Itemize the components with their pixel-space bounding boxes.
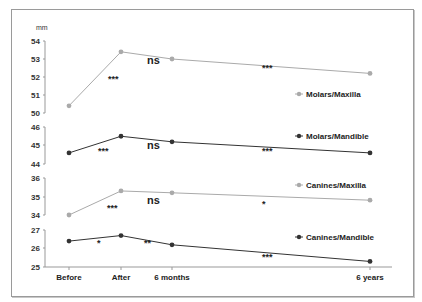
legend-label: Canines/Maxilla	[306, 181, 367, 190]
significance-annotation: *	[97, 238, 101, 248]
line-chart: mm5453525150464544363534272625BeforeAfte…	[0, 0, 422, 302]
significance-annotation: ***	[262, 252, 273, 262]
data-point	[368, 198, 373, 203]
significance-annotation: ***	[98, 146, 109, 156]
data-point	[67, 103, 72, 108]
y-tick-label: 52	[31, 73, 40, 82]
legend-marker	[297, 134, 301, 138]
data-point	[368, 71, 373, 76]
legend-label: Canines/Mandible	[306, 233, 375, 242]
y-tick-label: 51	[31, 91, 40, 100]
legend-label: Molars/Mandible	[306, 132, 369, 141]
data-point	[67, 151, 72, 156]
data-point	[170, 190, 175, 195]
y-tick-label: 50	[31, 109, 40, 118]
data-point	[67, 213, 72, 218]
significance-annotation: **	[144, 238, 152, 248]
x-tick-label: After	[112, 273, 131, 282]
significance-annotation: ***	[262, 63, 273, 73]
significance-annotation: ***	[108, 74, 119, 84]
x-tick-label: 6 months	[154, 273, 190, 282]
data-point	[368, 151, 373, 156]
x-tick-label: 6 years	[356, 273, 384, 282]
significance-annotation: ns	[147, 194, 160, 206]
data-point	[67, 239, 72, 244]
y-tick-label: 54	[31, 37, 40, 46]
x-tick-label: Before	[56, 273, 82, 282]
y-tick-label: 44	[31, 160, 40, 169]
significance-annotation: *	[262, 199, 266, 209]
y-tick-label: 46	[31, 123, 40, 132]
y-tick-label: 34	[31, 211, 40, 220]
significance-annotation: ns	[147, 139, 160, 151]
data-point	[119, 49, 124, 54]
data-point	[170, 57, 175, 62]
legend-marker	[297, 183, 301, 187]
legend-label: Molars/Maxilla	[306, 90, 361, 99]
legend-marker	[297, 235, 301, 239]
data-point	[170, 242, 175, 247]
y-tick-label: 25	[31, 263, 40, 272]
y-axis-unit-label: mm	[36, 24, 48, 31]
data-point	[119, 134, 124, 139]
data-point	[170, 139, 175, 144]
data-point	[119, 189, 124, 194]
data-point	[119, 233, 124, 238]
y-tick-label: 27	[31, 226, 40, 235]
legend-marker	[297, 92, 301, 96]
y-tick-label: 36	[31, 174, 40, 183]
y-tick-label: 53	[31, 55, 40, 64]
significance-annotation: ***	[262, 146, 273, 156]
y-tick-label: 45	[31, 141, 40, 150]
significance-annotation: ns	[147, 54, 160, 66]
data-point	[368, 259, 373, 264]
y-tick-label: 35	[31, 193, 40, 202]
y-tick-label: 26	[31, 244, 40, 253]
significance-annotation: ***	[107, 203, 118, 213]
